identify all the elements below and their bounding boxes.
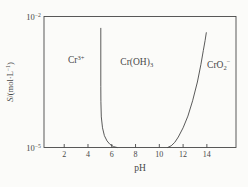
solubility-curve: [168, 33, 207, 148]
x-axis-label: pH: [134, 163, 146, 173]
region-label-Cr(OH)3: Cr(OH)3: [120, 57, 153, 68]
solubility-curve: [101, 28, 117, 147]
y-tick-label: 10−5: [26, 143, 41, 153]
x-tick-label: 12: [179, 150, 187, 159]
y-axis-label: S/(mol·L−1): [5, 62, 15, 102]
x-tick-label: 6: [110, 150, 114, 159]
x-tick-label: 4: [86, 150, 90, 159]
x-tick-label: 8: [134, 150, 138, 159]
solubility-vs-ph-figure: 2468101214pH10−210−5S/(mol·L−1)Cr3+Cr(OH…: [0, 0, 248, 187]
chart-canvas: 2468101214pH10−210−5S/(mol·L−1)Cr3+Cr(OH…: [0, 0, 248, 187]
x-tick-label: 10: [155, 150, 163, 159]
y-tick-label: 10−2: [26, 12, 41, 22]
x-tick-label: 2: [62, 150, 66, 159]
plot-frame: [44, 17, 236, 148]
region-label-CrO2-: CrO2−: [207, 58, 231, 71]
x-tick-label: 14: [203, 150, 211, 159]
region-label-Cr3+: Cr3+: [68, 54, 85, 65]
